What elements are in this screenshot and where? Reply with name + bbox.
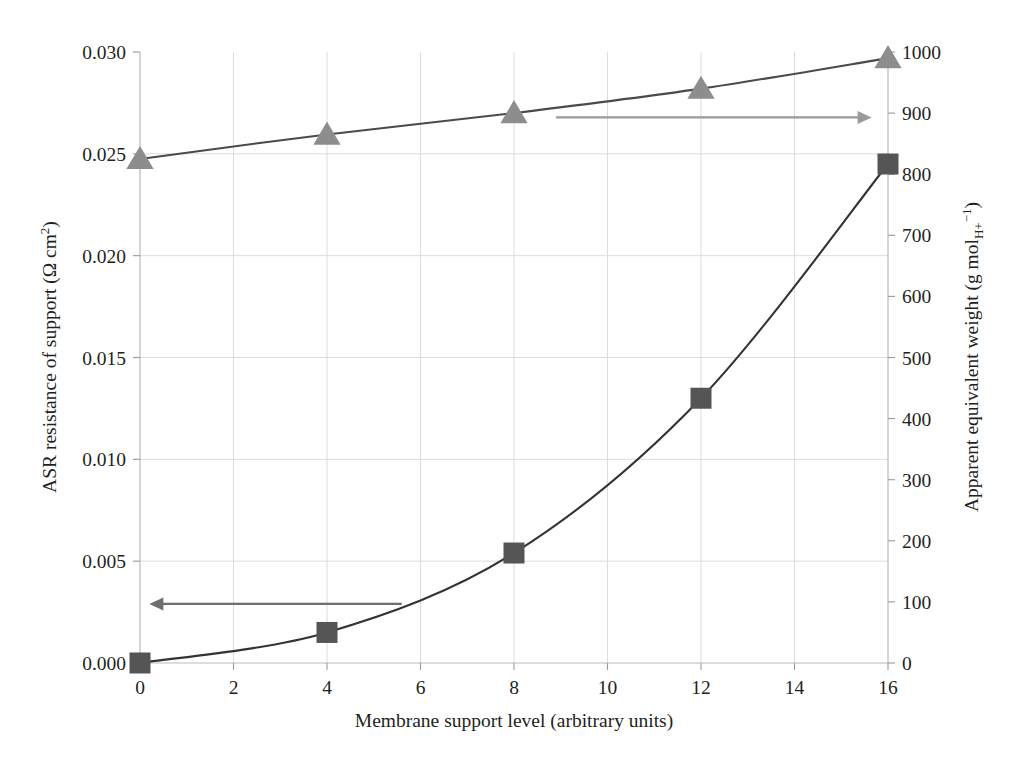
y-right-axis-tick-label: 600 [902,286,931,307]
data-point-marker-square [691,388,712,409]
y-left-axis-tick-label: 0.025 [82,144,126,165]
y-right-axis-tick-label: 300 [902,470,931,491]
y-right-axis-tick-label: 0 [902,653,912,674]
x-axis-tick-label: 6 [416,677,426,698]
y-right-axis-tick-label: 1000 [902,42,941,63]
y-right-axis-title-subscript: H+ [971,222,986,239]
y-left-axis-title: ASR resistance of support (Ω cm2) [37,221,61,493]
x-axis-tick-label: 0 [135,677,145,698]
chart-canvas: 0246810121416 0.0000.0050.0100.0150.0200… [0,0,1013,766]
y-left-axis-title-tail: ) [39,221,61,228]
y-right-axis-tick-label: 400 [902,409,931,430]
x-axis-tick-label: 14 [785,677,805,698]
y-left-axis-tick-label: 0.030 [82,42,126,63]
data-point-marker-square [504,543,525,564]
y-right-axis-tick-label: 900 [902,103,931,124]
y-left-axis-tick-label: 0.020 [82,246,126,267]
y-right-axis-tick-label: 500 [902,348,931,369]
y-right-axis-tick-label: 200 [902,531,931,552]
y-right-axis-tick-label: 800 [902,164,931,185]
x-axis-title: Membrane support level (arbitrary units) [355,710,673,732]
x-axis-tick-label: 16 [878,677,898,698]
x-axis-tick-label: 10 [598,677,618,698]
y-left-axis-title-main: ASR resistance of support (Ω cm [39,234,61,493]
x-axis-tick-label: 8 [509,677,519,698]
data-point-marker-square [317,622,338,643]
chart-figure: 0246810121416 0.0000.0050.0100.0150.0200… [0,0,1013,766]
y-left-axis-tick-label: 0.015 [82,348,126,369]
y-right-axis-title-main: Apparent equivalent weight (g mol [961,239,983,513]
y-right-axis-title-tail: ) [961,202,983,209]
y-left-axis-tick-label: 0.005 [82,551,126,572]
y-left-axis-tick-label: 0.010 [82,449,126,470]
x-axis-tick-label: 12 [691,677,711,698]
x-axis-tick-label: 2 [229,677,239,698]
y-right-axis-tick-label: 700 [902,225,931,246]
x-axis-tick-label: 4 [322,677,332,698]
y-right-axis-title: Apparent equivalent weight (g molH+−1) [959,202,986,512]
data-point-marker-square [130,653,151,674]
y-right-axis-tick-label: 100 [902,592,931,613]
y-right-axis-title-superscript: −1 [959,208,974,222]
y-left-axis-tick-label: 0.000 [82,653,126,674]
data-point-marker-square [878,154,899,175]
